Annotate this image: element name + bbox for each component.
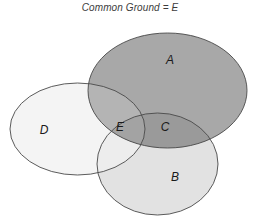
- region-label-c: C: [161, 120, 170, 134]
- region-label-d: D: [40, 123, 49, 137]
- region-label-e: E: [116, 120, 125, 134]
- venn-diagram-figure: Common Ground = E: [0, 0, 260, 224]
- region-label-b: B: [171, 170, 179, 184]
- region-label-a: A: [165, 53, 174, 67]
- venn-diagram-canvas: A B C D E: [0, 0, 260, 224]
